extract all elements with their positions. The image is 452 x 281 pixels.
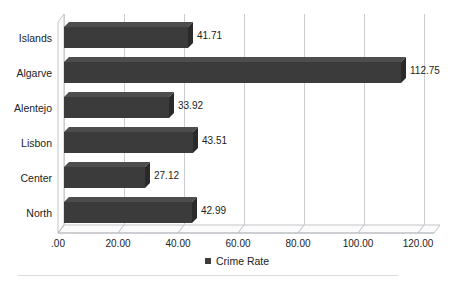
- plot-3d-left-wall: [58, 14, 64, 233]
- bar-group: 42.99: [64, 197, 226, 223]
- category-label: Lisbon: [21, 137, 52, 149]
- x-tick-label: 80.00: [285, 238, 310, 249]
- bar-value-label: 43.51: [202, 135, 227, 146]
- bar-group: 27.12: [64, 162, 179, 188]
- bar-group: 33.92: [64, 92, 203, 118]
- legend-swatch-icon: [205, 258, 211, 264]
- bar-value-label: 42.99: [201, 205, 226, 216]
- x-tick-label: .00: [51, 238, 65, 249]
- category-label: Center: [20, 172, 52, 184]
- x-tick-label: 120.00: [403, 238, 434, 249]
- category-label: Algarve: [16, 67, 52, 79]
- crime-rate-bar-chart: 41.71 112.75 33.92 43.51 27.: [0, 0, 452, 281]
- x-tick-label: 100.00: [343, 238, 374, 249]
- bar-group: 43.51: [64, 127, 227, 153]
- category-label: Alentejo: [14, 102, 52, 114]
- x-tick-label: 40.00: [165, 238, 190, 249]
- chart-canvas: 41.71 112.75 33.92 43.51 27.: [0, 0, 452, 281]
- category-label: North: [26, 207, 52, 219]
- x-tick-label: 20.00: [105, 238, 130, 249]
- bar-value-label: 41.71: [197, 30, 222, 41]
- bar-group: 112.75: [64, 57, 440, 83]
- bar-value-label: 112.75: [410, 65, 440, 76]
- bar-value-label: 27.12: [154, 170, 179, 181]
- legend-label: Crime Rate: [216, 255, 269, 267]
- bar-group: 41.71: [64, 22, 222, 48]
- legend: Crime Rate: [205, 255, 269, 267]
- x-tick-label: 60.00: [225, 238, 250, 249]
- bar-value-label: 33.92: [178, 100, 203, 111]
- value-axis-labels: .00 20.00 40.00 60.00 80.00 100.00 120.0…: [51, 238, 434, 249]
- category-axis-labels: Islands Algarve Alentejo Lisbon Center N…: [14, 32, 52, 219]
- plot-3d-floor: [58, 225, 440, 233]
- category-label: Islands: [19, 32, 52, 44]
